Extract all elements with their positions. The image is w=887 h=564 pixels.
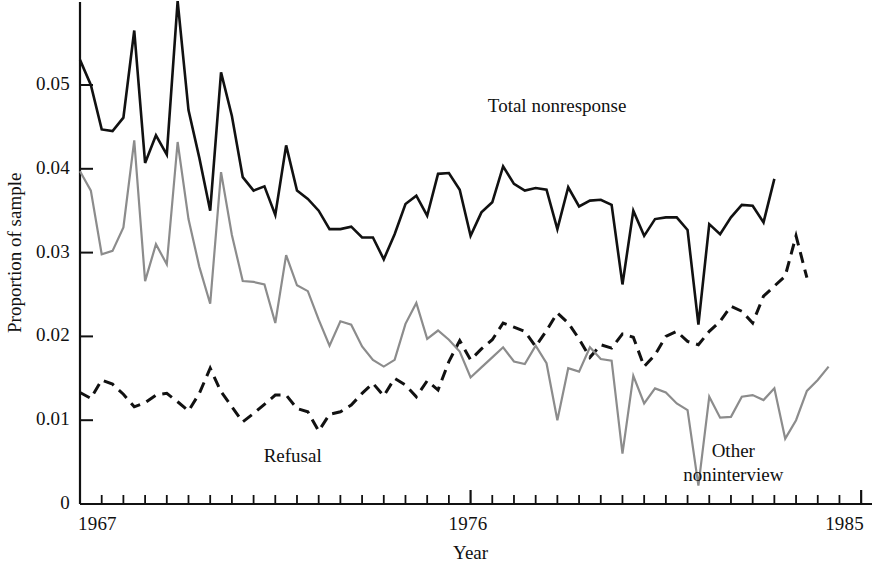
annotation-refusal: Refusal bbox=[264, 445, 322, 466]
series-line-refusal bbox=[80, 236, 807, 431]
y-axis-tick-label: 0 bbox=[0, 492, 70, 514]
annotation-total-nonresponse: Total nonresponse bbox=[488, 95, 627, 116]
y-axis-tick-label: 0.01 bbox=[0, 408, 70, 430]
x-axis-tick-label: 1976 bbox=[449, 513, 488, 535]
chart-figure: 00.010.020.030.040.05 196719761985 Propo… bbox=[0, 0, 887, 564]
annotation-other-noninterview-line1: Other bbox=[712, 440, 755, 461]
x-axis-tick-label: 1985 bbox=[825, 513, 864, 535]
x-axis-ticks bbox=[102, 490, 861, 504]
y-axis-ticks bbox=[80, 85, 93, 420]
series-line-other-noninterview bbox=[80, 140, 829, 485]
series-line-total-nonresponse bbox=[80, 1, 774, 324]
axis-lines bbox=[80, 2, 872, 504]
series-paths bbox=[80, 1, 829, 485]
x-axis-tick-label: 1967 bbox=[78, 513, 117, 535]
annotation-other-noninterview-line2: noninterview bbox=[683, 464, 783, 485]
y-axis-tick-label: 0.05 bbox=[0, 73, 70, 95]
y-axis-title: Proportion of sample bbox=[4, 173, 26, 333]
x-axis-title: Year bbox=[453, 542, 488, 564]
